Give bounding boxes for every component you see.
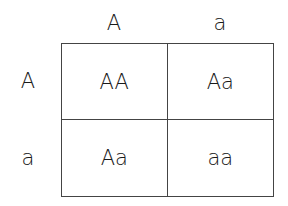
genotype-cell: Aa: [62, 120, 168, 196]
row-allele-label: A: [10, 69, 46, 93]
genotype-cell: AA: [62, 44, 168, 120]
row-allele-label: a: [10, 146, 46, 170]
column-allele-label: A: [61, 11, 167, 35]
genotype-cell: Aa: [168, 44, 274, 120]
genotype-grid: AA Aa Aa aa: [61, 43, 274, 197]
column-allele-label: a: [167, 11, 273, 35]
genotype-cell: aa: [168, 120, 274, 196]
